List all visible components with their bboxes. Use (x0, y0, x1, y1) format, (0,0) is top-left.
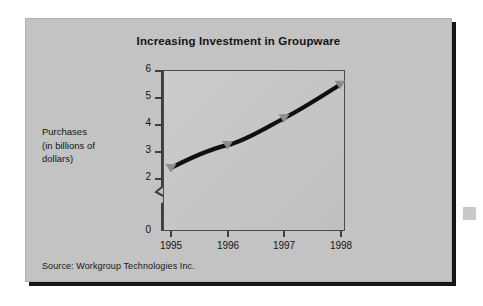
y-tick-5 (155, 97, 161, 99)
panel-drop-shadow-right (452, 22, 456, 286)
series-purchases (163, 70, 345, 231)
page-title: Increasing Investment in Groupware (25, 35, 452, 47)
y-tick-label-4: 4 (129, 117, 151, 128)
x-tick-1996 (227, 231, 229, 237)
y-tick-4 (155, 124, 161, 126)
panel-drop-shadow-bottom (29, 282, 456, 286)
x-tick-1998 (340, 231, 342, 237)
y-tick-label-6: 6 (129, 63, 151, 74)
plot-area (163, 70, 345, 231)
scan-artifact-square (463, 207, 476, 220)
y-tick-label-3: 3 (129, 144, 151, 155)
x-tick-label-1998: 1998 (321, 240, 361, 251)
y-tick-label-5: 5 (129, 90, 151, 101)
source-note: Source: Workgroup Technologies Inc. (42, 261, 195, 271)
y-tick-3 (155, 151, 161, 153)
chart-figure-panel: Increasing Investment in Groupware Purch… (25, 18, 452, 282)
x-tick-label-1995: 1995 (151, 240, 191, 251)
x-tick-1995 (170, 231, 172, 237)
x-tick-label-1997: 1997 (264, 240, 304, 251)
y-tick-2 (155, 178, 161, 180)
y-tick-label-0: 0 (129, 224, 151, 235)
y-tick-6 (155, 70, 161, 72)
x-tick-1997 (283, 231, 285, 237)
x-tick-label-1996: 1996 (208, 240, 248, 251)
y-tick-label-2: 2 (129, 171, 151, 182)
